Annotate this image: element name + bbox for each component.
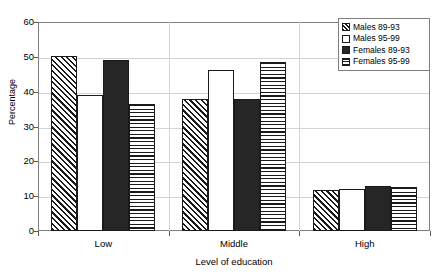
legend-swatch-icon (342, 58, 350, 66)
legend-label: Males 89-93 (353, 23, 400, 32)
legend-label: Females 95-99 (353, 57, 410, 66)
bar-chart: Percentage 0102030405060 LowMiddleHigh L… (0, 0, 434, 275)
y-tick-label: 30 (4, 122, 34, 131)
category-separator (299, 22, 300, 231)
x-tick-mark (38, 231, 39, 236)
legend-label: Males 95-99 (353, 34, 400, 43)
legend-item: Females 89-93 (342, 45, 427, 56)
bar (129, 104, 155, 231)
category-separator (169, 22, 170, 231)
bar (391, 187, 417, 231)
bar-group-bars (38, 22, 169, 231)
y-tick-label: 0 (4, 226, 34, 235)
bar (260, 62, 286, 231)
bar (234, 99, 260, 231)
x-axis-title: Level of education (38, 256, 430, 267)
bar (77, 95, 103, 231)
y-tick-label: 20 (4, 156, 34, 165)
legend-swatch-icon (342, 46, 350, 54)
bar (51, 56, 77, 231)
y-axis-ticks: 0102030405060 (0, 22, 34, 231)
bar-group (169, 22, 300, 231)
x-tick-mark (430, 231, 431, 236)
x-tick-label: Middle (169, 238, 300, 249)
y-tick-label: 40 (4, 87, 34, 96)
x-tick-label: High (299, 238, 430, 249)
bar (365, 186, 391, 231)
legend-item: Females 95-99 (342, 56, 427, 67)
bar-group-bars (169, 22, 300, 231)
x-tick-mark (299, 231, 300, 236)
y-tick-label: 10 (4, 191, 34, 200)
bar (313, 190, 339, 231)
legend-item: Males 89-93 (342, 22, 427, 33)
bar-group (38, 22, 169, 231)
bar (208, 70, 234, 231)
x-tick-mark (169, 231, 170, 236)
bar (182, 99, 208, 231)
bar (339, 189, 365, 231)
legend-swatch-icon (342, 23, 350, 31)
legend-item: Males 95-99 (342, 33, 427, 44)
x-axis-labels: LowMiddleHigh (38, 238, 430, 249)
y-tick-label: 60 (4, 17, 34, 26)
chart-legend: Males 89-93Males 95-99Females 89-93Femal… (338, 18, 430, 71)
legend-label: Females 89-93 (353, 46, 410, 55)
x-tick-label: Low (38, 238, 169, 249)
legend-swatch-icon (342, 35, 350, 43)
y-tick-label: 50 (4, 52, 34, 61)
bar (103, 60, 129, 231)
